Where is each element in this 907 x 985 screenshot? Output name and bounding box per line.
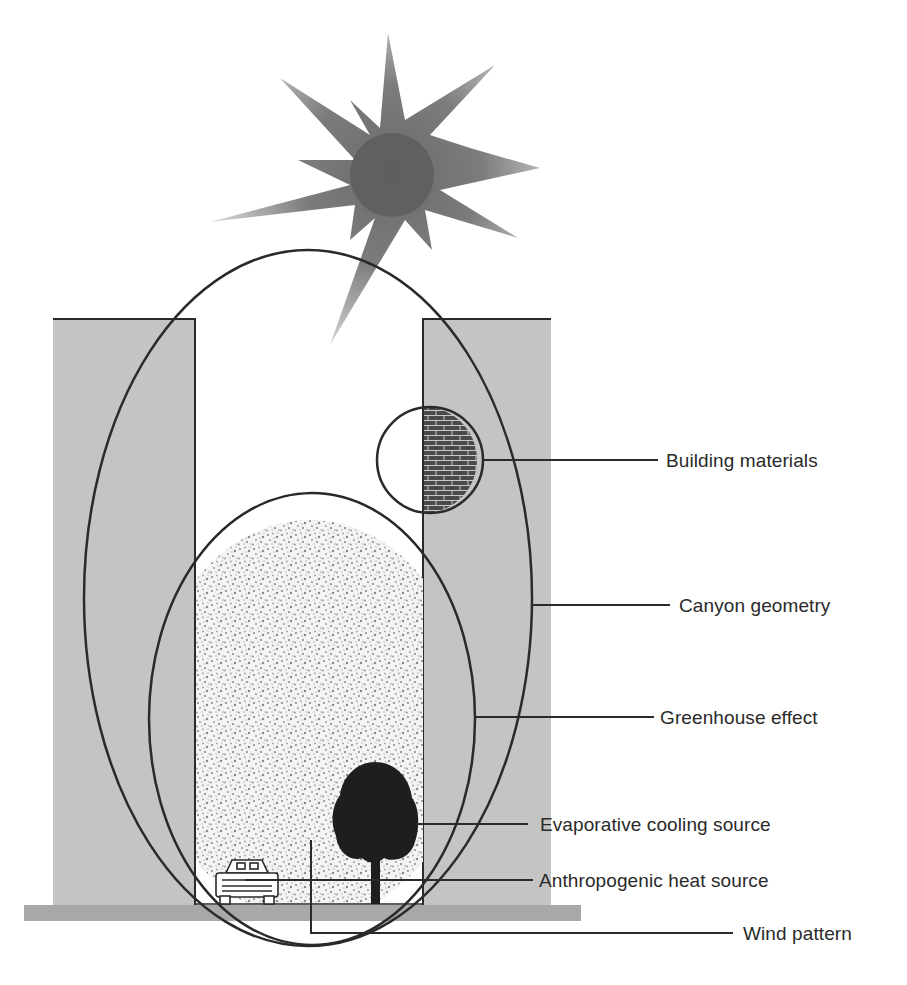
label-evaporative-cooling: Evaporative cooling source	[540, 815, 771, 834]
label-wind-pattern: Wind pattern	[743, 924, 852, 943]
urban-canyon-diagram	[0, 0, 907, 985]
label-building-materials: Building materials	[666, 451, 818, 470]
sun-icon	[210, 33, 540, 345]
label-greenhouse-effect: Greenhouse effect	[660, 708, 818, 727]
label-anthropogenic-heat: Anthropogenic heat source	[539, 871, 769, 890]
building-materials-circle	[371, 407, 483, 513]
ground-slab	[24, 905, 581, 921]
left-building	[53, 319, 195, 905]
label-canyon-geometry: Canyon geometry	[679, 596, 830, 615]
